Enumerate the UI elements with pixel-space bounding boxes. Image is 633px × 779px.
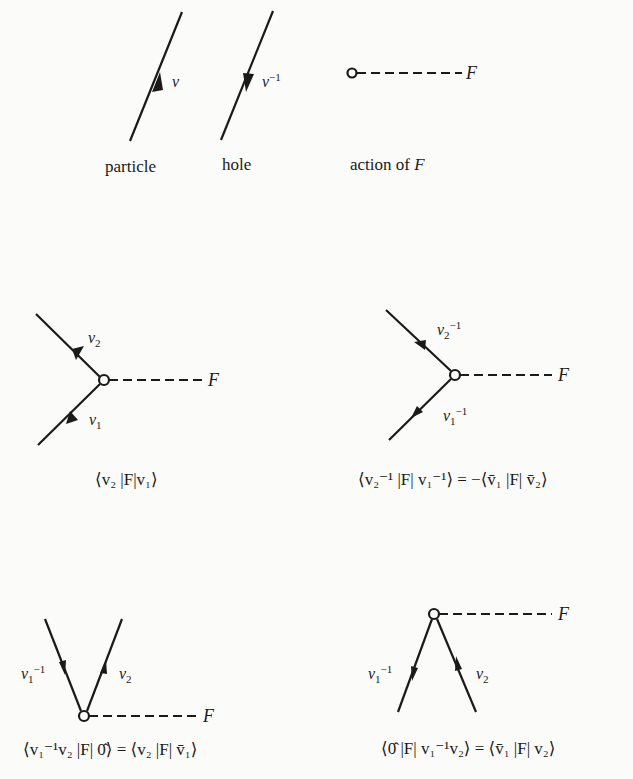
action-label: F xyxy=(466,64,477,82)
diagram-1 xyxy=(36,314,203,445)
arrow-up-icon xyxy=(455,656,462,671)
d1-lower-label: v1 xyxy=(89,412,102,428)
action-caption: action of F xyxy=(350,156,425,173)
hole-label: v−1 xyxy=(262,74,281,90)
d4-equation: ⟨0̂ |F| v₁⁻¹v₂⟩ = ⟨v̄₁ |F| v₂⟩ xyxy=(381,740,555,757)
d3-right-label: v2 xyxy=(119,666,132,682)
arrow-down-icon xyxy=(414,340,426,350)
particle-caption: particle xyxy=(105,158,156,175)
d2-upper-label: v2−1 xyxy=(437,322,461,338)
particle-label: v xyxy=(172,74,179,90)
diagram-2 xyxy=(386,310,552,440)
d3-field-label: F xyxy=(203,707,214,725)
hole-caption: hole xyxy=(222,156,251,173)
d4-right-label: v2 xyxy=(476,666,489,682)
d3-left-label: v1−1 xyxy=(21,666,45,682)
action-line xyxy=(348,69,463,78)
d1-field-label: F xyxy=(208,371,219,389)
d3-equation: ⟨v₁⁻¹v₂ |F| 0̂⟩ = ⟨v₂ |F| v̄₁⟩ xyxy=(23,741,197,758)
d2-lower-label: v1−1 xyxy=(443,408,467,424)
arrow-down-icon xyxy=(59,660,66,675)
diagram-4 xyxy=(398,609,552,712)
d2-equation: ⟨v₂⁻¹ |F| v₁⁻¹⟩ = −⟨v̄₁ |F| v̄₂⟩ xyxy=(358,471,548,488)
d2-field-label: F xyxy=(558,366,569,384)
d4-field-label: F xyxy=(558,605,569,623)
d4-left-label: v1−1 xyxy=(368,666,392,682)
arrow-up-icon xyxy=(100,660,107,674)
arrow-down-icon xyxy=(411,666,418,681)
d1-equation: ⟨v₂ |F|v₁⟩ xyxy=(95,471,158,488)
diagram-page: v v−1 F particle hole action of F v2 v1 … xyxy=(0,0,633,779)
arrow-down-icon xyxy=(243,73,254,92)
diagram-graphics xyxy=(0,0,633,779)
d1-upper-label: v2 xyxy=(88,330,101,346)
arrow-up-icon xyxy=(72,346,84,360)
